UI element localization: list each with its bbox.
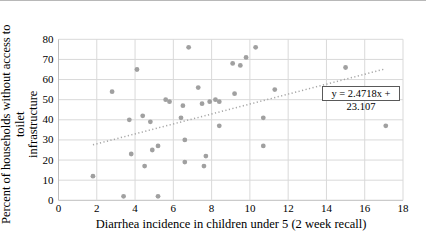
y-tick-label: 70 — [43, 53, 55, 65]
data-point — [182, 160, 187, 165]
x-tick-label: 0 — [56, 202, 62, 214]
data-point — [253, 45, 258, 50]
data-point — [148, 119, 153, 124]
x-tick-label: 6 — [171, 202, 177, 214]
data-point — [127, 117, 132, 122]
x-tick-label: 10 — [244, 202, 256, 214]
x-axis-title: Diarrhea incidence in children under 5 (… — [59, 217, 403, 232]
x-tick-label: 4 — [132, 202, 138, 214]
data-point — [217, 123, 222, 128]
data-point — [91, 174, 96, 179]
y-tick-label: 50 — [43, 93, 55, 105]
data-point — [150, 148, 155, 153]
x-tick-label: 16 — [359, 202, 371, 214]
data-point — [261, 115, 266, 120]
data-point — [196, 85, 201, 90]
data-point — [182, 138, 187, 143]
data-point — [110, 89, 115, 94]
plot-area: 01020304050607080024681012141618 — [0, 1, 426, 242]
y-tick-label: 30 — [43, 133, 55, 145]
data-point — [181, 103, 186, 108]
y-axis-title: Percent of households without access to … — [0, 15, 40, 233]
data-point — [244, 55, 249, 60]
data-point — [272, 87, 277, 92]
data-point — [179, 115, 184, 120]
trendline-equation-box: y = 2.4718x + 23.107 — [322, 86, 400, 101]
x-tick-label: 2 — [94, 202, 100, 214]
y-axis-title-line1: Percent of households without access to … — [0, 24, 26, 224]
data-point — [129, 152, 134, 157]
data-point — [217, 99, 222, 104]
data-point — [232, 91, 237, 96]
data-point — [186, 45, 191, 50]
x-tick-label: 18 — [398, 202, 410, 214]
data-point — [230, 61, 235, 66]
y-tick-label: 20 — [43, 154, 55, 166]
scatter-chart: 01020304050607080024681012141618 Percent… — [0, 0, 426, 242]
x-tick-label: 14 — [321, 202, 333, 214]
x-tick-label: 12 — [283, 202, 294, 214]
data-point — [142, 164, 147, 169]
data-point — [207, 99, 212, 104]
data-point — [167, 99, 172, 104]
x-tick-label: 8 — [209, 202, 215, 214]
trendline — [93, 69, 384, 145]
y-tick-label: 0 — [48, 194, 54, 206]
data-point — [202, 164, 207, 169]
data-point — [383, 123, 388, 128]
data-point — [156, 194, 161, 199]
y-tick-label: 80 — [43, 33, 55, 45]
data-point — [156, 144, 161, 149]
data-point — [261, 144, 266, 149]
data-point — [200, 101, 205, 106]
data-point — [238, 63, 243, 68]
data-point — [343, 65, 348, 70]
y-axis-title-line2: infrastructure — [26, 91, 40, 158]
y-tick-label: 40 — [43, 113, 55, 125]
y-tick-label: 10 — [43, 174, 55, 186]
data-point — [203, 154, 208, 159]
y-tick-label: 60 — [43, 73, 55, 85]
data-point — [121, 194, 126, 199]
data-point — [135, 67, 140, 72]
data-point — [140, 113, 145, 118]
